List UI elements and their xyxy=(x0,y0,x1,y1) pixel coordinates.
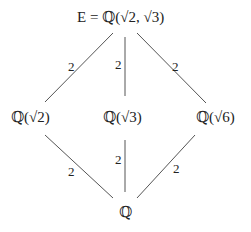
edge-label-top-middle: 2 xyxy=(115,58,122,71)
edge-top-left xyxy=(45,33,113,102)
node-middle: ℚ(√3) xyxy=(103,110,142,125)
edge-left-bottom xyxy=(45,135,113,198)
edge-label-middle-bottom: 2 xyxy=(115,153,122,166)
edge-label-left-bottom: 2 xyxy=(68,165,75,178)
node-left: ℚ(√2) xyxy=(11,110,50,125)
edge-right-bottom xyxy=(137,135,195,198)
node-top: E = ℚ(√2, √3) xyxy=(77,10,164,25)
edge-label-top-left: 2 xyxy=(68,60,75,73)
node-bottom: ℚ xyxy=(119,205,132,220)
node-right: ℚ(√6) xyxy=(196,110,235,125)
edge-label-top-right: 2 xyxy=(172,60,179,73)
edge-label-right-bottom: 2 xyxy=(173,162,180,175)
